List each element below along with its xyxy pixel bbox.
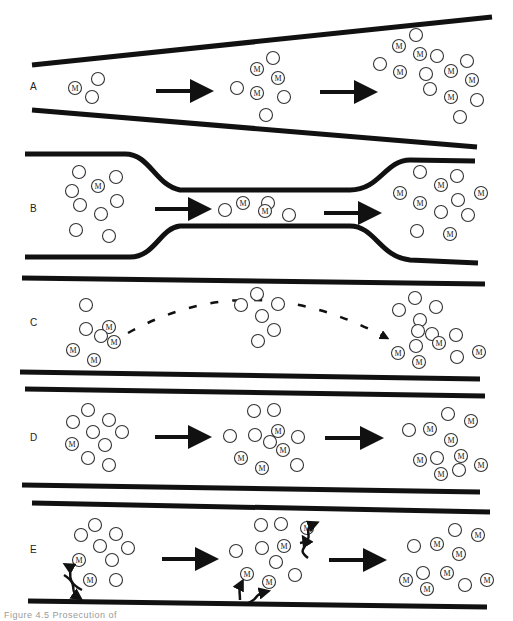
particle (75, 529, 88, 542)
marked-particle: M (475, 187, 488, 200)
marker-label: M (258, 464, 265, 473)
marked-particle: M (473, 346, 486, 359)
panel-label: A (30, 81, 37, 92)
marker-label: M (86, 576, 93, 585)
marked-particle: M (475, 459, 488, 472)
marked-particle: M (414, 454, 427, 467)
marker-label: M (274, 427, 281, 436)
marker-label: M (90, 356, 97, 365)
particle (403, 424, 416, 437)
marker-label: M (477, 461, 484, 470)
panel-label: D (30, 432, 37, 443)
wall-interaction-arrow-icon (68, 566, 82, 590)
particle (95, 208, 108, 221)
marker-label: M (433, 540, 440, 549)
marker-label: M (395, 42, 402, 51)
marked-particle: M (88, 354, 101, 367)
marked-particle: M (263, 576, 276, 589)
panel-b: BMMMMMMMM (25, 154, 488, 263)
particle (267, 52, 280, 65)
marked-particle: M (235, 452, 248, 465)
particle (103, 230, 116, 243)
particle (450, 329, 463, 342)
particle (410, 29, 423, 42)
marker-label: M (426, 425, 433, 434)
particle (430, 301, 443, 314)
marked-particle: M (444, 228, 457, 241)
marked-particle: M (481, 574, 494, 587)
figure-caption: Figure 4.5 Prosecution of (4, 610, 117, 620)
vessel-wall (20, 372, 480, 379)
particle (431, 50, 444, 63)
marked-particle: M (84, 574, 97, 587)
particle (248, 405, 261, 418)
marker-label: M (455, 550, 462, 559)
panel-a: AMMMMMMMMMM (30, 17, 492, 147)
particle (452, 194, 465, 207)
particle (278, 91, 291, 104)
marker-label: M (253, 89, 260, 98)
marked-particle: M (445, 434, 458, 447)
marker-label: M (446, 230, 453, 239)
particle (454, 111, 467, 124)
particle (451, 170, 464, 183)
marker-label: M (237, 454, 244, 463)
particle (94, 540, 107, 553)
particle (283, 209, 296, 222)
marker-label: M (110, 338, 117, 347)
particle (408, 540, 421, 553)
marker-label: M (435, 339, 442, 348)
marker-label: M (280, 542, 287, 551)
marked-particle: M (414, 48, 427, 61)
marker-label: M (243, 570, 250, 579)
particle (451, 351, 464, 364)
marked-particle: M (453, 548, 466, 561)
marked-particle: M (241, 568, 254, 581)
particle (92, 73, 105, 86)
vessel-wall (25, 389, 485, 396)
vessel-wall (32, 503, 490, 512)
marked-particle: M (433, 337, 446, 350)
marked-particle: M (455, 450, 468, 463)
marker-label: M (105, 323, 112, 332)
particle (289, 569, 302, 582)
panels-container: AMMMMMMMMMMBMMMMMMMMCMMMMMMMMDMMMMMMMMMM… (20, 17, 494, 607)
particle (110, 528, 123, 541)
particle (235, 299, 248, 312)
wall-interaction-arrow-icon (239, 584, 241, 600)
panel-label: B (30, 203, 37, 214)
particle (255, 519, 268, 532)
figure-canvas: AMMMMMMMMMMBMMMMMMMMCMMMMMMMMDMMMMMMMMMM… (0, 0, 513, 621)
particle (74, 199, 87, 212)
marked-particle: M (251, 87, 264, 100)
particle (431, 452, 444, 465)
marker-label: M (239, 199, 246, 208)
marker-label: M (423, 585, 430, 594)
marked-particle: M (421, 583, 434, 596)
marked-particle: M (413, 356, 426, 369)
marker-label: M (94, 182, 101, 191)
particle (270, 556, 283, 569)
marked-particle: M (414, 197, 427, 210)
marker-label: M (415, 358, 422, 367)
particle (82, 404, 95, 417)
particle (116, 426, 129, 439)
marked-particle: M (465, 415, 478, 428)
particle (95, 330, 108, 343)
marked-particle: M (251, 63, 264, 76)
particle (110, 171, 123, 184)
marker-label: M (416, 50, 423, 59)
particle (374, 58, 387, 71)
particle (471, 94, 484, 107)
particle (99, 439, 112, 452)
marker-label: M (457, 452, 464, 461)
particle (393, 304, 406, 317)
marker-label: M (394, 349, 401, 358)
marked-particle: M (66, 438, 79, 451)
marker-label: M (265, 578, 272, 587)
marker-label: M (75, 556, 82, 565)
marker-label: M (279, 446, 286, 455)
marked-particle: M (256, 462, 269, 475)
particle (103, 414, 116, 427)
marker-label: M (437, 470, 444, 479)
